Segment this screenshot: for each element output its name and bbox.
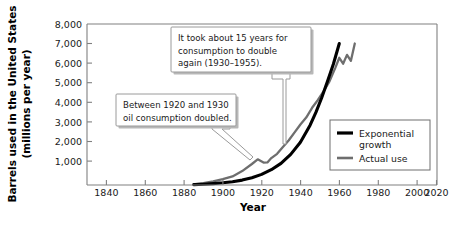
y-axis-title-line1: Barrels used in the United States bbox=[6, 5, 18, 202]
callout-doubling-1950s-line1: It took about 15 years for bbox=[178, 33, 288, 43]
legend-label-actual-use: Actual use bbox=[359, 153, 408, 164]
y-axis: 8,000 7,000 6,000 5,000 4,000 3,000 2,00… bbox=[55, 19, 92, 186]
x-tick-label-1840: 1840 bbox=[94, 187, 118, 198]
callout-doubling-1950s-line3: again (1930–1955). bbox=[178, 58, 262, 68]
x-tick-label-1900: 1900 bbox=[211, 187, 235, 198]
callout-doubling-1920s-line1: Between 1920 and 1930 bbox=[123, 100, 229, 110]
oil-consumption-line-chart: Barrels used in the United States (milli… bbox=[0, 0, 455, 233]
x-tick-label-1960: 1960 bbox=[327, 187, 351, 198]
y-tick-label-3000: 3,000 bbox=[55, 117, 82, 128]
callout-doubling-1920s-pointer bbox=[212, 123, 253, 160]
callout-doubling-1920s-line2: oil consumption doubled. bbox=[123, 113, 232, 123]
callout-doubling-1920s: Between 1920 and 1930 oil consumption do… bbox=[116, 94, 253, 160]
x-tick-label-1860: 1860 bbox=[133, 187, 157, 198]
y-tick-label-2000: 2,000 bbox=[55, 136, 82, 147]
callout-doubling-1950s-line2: consumption to double bbox=[178, 46, 277, 56]
y-axis-title-line2: (millions per year) bbox=[20, 49, 32, 158]
x-tick-label-1880: 1880 bbox=[172, 187, 196, 198]
x-tick-label-2020: 2020 bbox=[424, 187, 448, 198]
y-axis-title: Barrels used in the United States (milli… bbox=[6, 5, 32, 202]
x-tick-label-1920: 1920 bbox=[250, 187, 274, 198]
y-tick-label-7000: 7,000 bbox=[55, 38, 82, 49]
x-tick-label-1940: 1940 bbox=[289, 187, 313, 198]
legend-label-exponential-growth-line2: growth bbox=[359, 139, 391, 150]
x-tick-label-1980: 1980 bbox=[366, 187, 390, 198]
legend-label-exponential-growth-line1: Exponential bbox=[359, 128, 414, 139]
y-tick-label-5000: 5,000 bbox=[55, 77, 82, 88]
y-tick-label-8000: 8,000 bbox=[55, 19, 82, 30]
callout-doubling-1950s-pointer bbox=[272, 73, 290, 144]
x-axis: 1840 1860 1880 1900 1920 1940 1960 1980 … bbox=[87, 180, 449, 213]
chart-legend: Exponential growth Actual use bbox=[330, 120, 430, 170]
y-tick-label-6000: 6,000 bbox=[55, 58, 82, 69]
y-tick-label-4000: 4,000 bbox=[55, 97, 82, 108]
chart-figure: Barrels used in the United States (milli… bbox=[0, 0, 455, 233]
x-axis-title: Year bbox=[239, 201, 267, 213]
y-tick-label-1000: 1,000 bbox=[55, 156, 82, 167]
